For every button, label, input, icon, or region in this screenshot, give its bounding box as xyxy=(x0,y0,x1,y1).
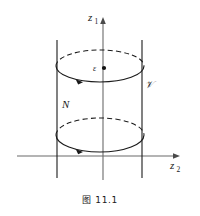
horizontal-axis xyxy=(17,153,180,159)
vertical-axis-subscript: 1 xyxy=(95,17,99,26)
bottom-ellipse-front-solid xyxy=(56,135,144,152)
top-ellipse-back-dashed xyxy=(56,50,144,66)
vertical-axis-label: z xyxy=(87,11,93,23)
bottom-ellipse-back-dashed xyxy=(56,118,144,135)
figure-container: z 1 z 2 ε N 𝒱 图 11.1 xyxy=(0,0,200,216)
figure-caption: 图 11.1 xyxy=(0,193,200,206)
vertical-axis-arrowhead xyxy=(100,17,106,24)
top-ellipse xyxy=(56,50,144,84)
top-ellipse-front-solid xyxy=(56,66,144,82)
horizontal-axis-label: z xyxy=(169,159,175,171)
center-point-dot xyxy=(102,66,106,70)
center-point-label: ε xyxy=(93,64,97,73)
horizontal-axis-arrowhead xyxy=(173,153,180,159)
figure-diagram: z 1 z 2 ε N 𝒱 xyxy=(0,0,200,216)
bottom-ellipse xyxy=(56,118,144,154)
cylinder-boundary-label: 𝒱 xyxy=(145,79,157,90)
cylinder-region-label: N xyxy=(61,98,70,110)
horizontal-axis-subscript: 2 xyxy=(177,165,181,174)
